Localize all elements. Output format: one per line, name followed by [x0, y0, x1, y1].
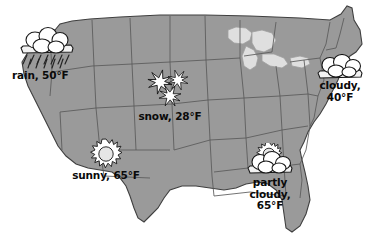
weather-marker-partly-cloudy[interactable]: partly cloudy, 65°F — [236, 143, 304, 212]
weather-label-partly-cloudy: partly cloudy, 65°F — [236, 177, 304, 212]
weather-marker-snow[interactable]: snow, 28°F — [128, 68, 212, 123]
rain-cloud-icon — [15, 26, 81, 70]
weather-label-cloudy: cloudy, 40°F — [312, 80, 368, 103]
weather-marker-sunny[interactable]: sunny, 65°F — [62, 138, 150, 182]
cloud-icon — [314, 54, 366, 80]
snowflake-icon — [142, 68, 198, 110]
sun-disc — [99, 147, 113, 161]
weather-label-sunny: sunny, 65°F — [62, 170, 150, 182]
weather-label-rain: rain, 50°F — [12, 70, 88, 82]
weather-map-container: rain, 50°F snow, 28°F — [0, 0, 371, 249]
sun-behind-cloud-icon — [243, 143, 297, 177]
weather-label-snow: snow, 28°F — [128, 111, 212, 123]
weather-marker-rain[interactable]: rain, 50°F — [8, 26, 88, 82]
sun-icon — [89, 138, 123, 170]
weather-marker-cloudy[interactable]: cloudy, 40°F — [312, 54, 368, 103]
